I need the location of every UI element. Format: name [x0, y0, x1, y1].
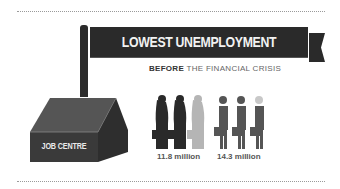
- banner-tail-icon: [309, 33, 325, 62]
- subtitle-emphasis: BEFORE: [149, 64, 184, 73]
- page-title: LOWEST UNEMPLOYMENT: [110, 27, 289, 57]
- bottom-divider: [17, 181, 325, 182]
- woman-with-briefcase-icon: [168, 95, 186, 149]
- man-with-briefcase-icon: [214, 96, 228, 149]
- title-banner: LOWEST UNEMPLOYMENT: [90, 27, 308, 57]
- women-unemployed-value: 11.8 million: [157, 152, 200, 161]
- men-unemployed-value: 14.3 million: [217, 152, 261, 161]
- sign-pole: [80, 25, 88, 97]
- woman-with-briefcase-icon: [152, 95, 168, 149]
- man-with-briefcase-icon: [232, 96, 246, 149]
- job-centre-label: JOB CENTRE: [35, 132, 93, 160]
- subtitle-text: THE FINANCIAL CRISIS: [184, 64, 281, 73]
- woman-with-briefcase-icon: [187, 95, 204, 149]
- people-figures: [150, 94, 270, 154]
- man-with-briefcase-icon: [250, 96, 264, 149]
- subtitle: BEFORE THE FINANCIAL CRISIS: [140, 64, 290, 73]
- top-divider: [17, 11, 325, 12]
